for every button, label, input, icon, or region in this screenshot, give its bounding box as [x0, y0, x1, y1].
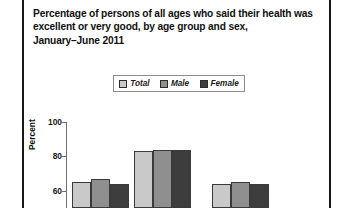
- chart-title-line-1: Percentage of persons of all ages who sa…: [33, 7, 323, 20]
- legend-label-male: Male: [171, 79, 189, 88]
- y-tick-label: 60: [53, 186, 62, 196]
- chart-title-line-2: excellent or very good, by age group and…: [33, 20, 323, 33]
- legend-label-total: Total: [130, 79, 149, 88]
- chart-title: Percentage of persons of all ages who sa…: [33, 7, 323, 47]
- y-axis-line: [66, 122, 67, 208]
- y-tick-mark: [62, 122, 67, 123]
- bar-total-group-2: [134, 151, 153, 208]
- chart-figure: Percentage of persons of all ages who sa…: [0, 0, 344, 208]
- y-tick-mark: [62, 191, 67, 192]
- bar-female-group-1: [110, 184, 129, 208]
- y-tick-mark: [62, 156, 67, 157]
- bar-female-group-3: [250, 184, 269, 208]
- figure-right-border: [329, 0, 331, 208]
- bar-male-group-2: [153, 150, 172, 208]
- legend-label-female: Female: [211, 79, 239, 88]
- legend-item-female: Female: [200, 79, 239, 88]
- bar-male-group-3: [231, 182, 250, 208]
- chart-legend: Total Male Female: [113, 75, 245, 92]
- chart-title-line-3: January–June 2011: [33, 34, 323, 47]
- y-tick-label: 80: [53, 151, 62, 161]
- bar-total-group-1: [72, 182, 91, 208]
- legend-item-total: Total: [119, 79, 149, 88]
- bar-female-group-2: [172, 150, 191, 208]
- legend-item-male: Male: [160, 79, 189, 88]
- legend-swatch-male-icon: [160, 80, 168, 88]
- bar-male-group-1: [91, 179, 110, 208]
- y-axis-title: Percent: [27, 119, 37, 150]
- legend-swatch-female-icon: [200, 80, 208, 88]
- figure-left-border: [22, 0, 24, 208]
- legend-swatch-total-icon: [119, 80, 127, 88]
- bar-total-group-3: [212, 184, 231, 208]
- plot-area: 1008060: [66, 118, 316, 208]
- y-tick-label: 100: [48, 117, 62, 127]
